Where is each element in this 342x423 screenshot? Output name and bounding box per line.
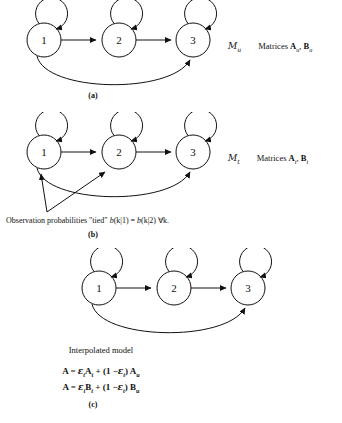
tied-observation-note: Observation probabilities "tied" b(k|1) …: [6, 217, 169, 225]
transition-1-3: [92, 304, 245, 333]
interpolation-equation-a: A = εtAt + (1 −εt) Au: [0, 366, 272, 378]
state-label-1: 1: [96, 282, 102, 294]
state-diagram-c: 1 2 3: [55, 248, 285, 348]
state-label-3: 3: [245, 282, 251, 294]
panel-caption-b: (b): [0, 230, 264, 239]
model-symbol-b: Mt: [228, 153, 240, 163]
transition-1-3: [37, 168, 190, 197]
state-diagram-b: 1 2 3: [0, 112, 230, 232]
state-label-1: 1: [41, 146, 47, 158]
state-label-3: 3: [190, 146, 196, 158]
model-label-a: MuMatrices Au, Bu: [228, 42, 312, 53]
transition-1-3: [37, 56, 190, 85]
matrices-text-b: Matrices At, Bt: [257, 153, 308, 163]
interpolated-model-title: Interpolated model: [0, 345, 272, 355]
panel-a: 1 2 3 MuMatrices Au, Bu (a): [0, 0, 342, 112]
panel-caption-c: (c): [0, 400, 264, 409]
panel-caption-a: (a): [0, 91, 264, 100]
state-label-2: 2: [116, 34, 122, 46]
state-label-2: 2: [116, 146, 122, 158]
hmm-interpolation-figure: 1 2 3 MuMatrices Au, Bu (a): [0, 0, 342, 423]
interpolation-equation-b: A = εtBt + (1 −εt) Bu: [0, 382, 272, 394]
matrices-text-a: Matrices Au, Bu: [258, 41, 312, 51]
state-label-2: 2: [171, 282, 177, 294]
state-label-1: 1: [41, 34, 47, 46]
state-label-3: 3: [190, 34, 196, 46]
model-symbol-a: Mu: [228, 41, 241, 51]
panel-b: 1 2 3 MtMatrices At, Bt Observation prob…: [0, 112, 342, 242]
pointer-arrow-to-state-2: [47, 172, 105, 212]
panel-c: 1 2 3 Interpolated model A = εtAt + (1 −…: [0, 248, 342, 423]
model-label-b: MtMatrices At, Bt: [228, 154, 308, 165]
state-diagram-a: 1 2 3: [0, 0, 230, 100]
